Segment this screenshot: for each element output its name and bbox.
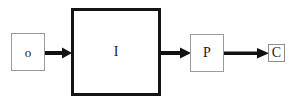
node-c[interactable]: C — [268, 44, 285, 62]
arrow-i-to-p-icon — [161, 46, 191, 60]
node-p[interactable]: P — [190, 34, 224, 72]
arrow-o-to-i-icon — [45, 46, 72, 60]
flow-diagram: o I P C — [0, 0, 292, 105]
arrow-p-to-c-icon — [224, 46, 269, 60]
node-o[interactable]: o — [11, 33, 45, 71]
node-i-label: I — [114, 45, 119, 59]
node-p-label: P — [203, 46, 211, 60]
node-c-label: C — [272, 46, 281, 60]
node-i[interactable]: I — [71, 8, 161, 96]
node-o-label: o — [25, 46, 32, 59]
